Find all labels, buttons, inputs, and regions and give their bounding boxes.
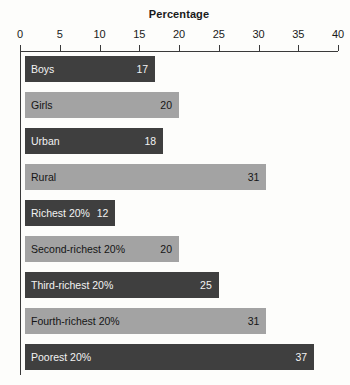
bar[interactable]: Urban18 bbox=[25, 128, 163, 154]
bar-row: Girls20 bbox=[0, 87, 350, 123]
x-axis-tick-label: 20 bbox=[173, 28, 185, 40]
x-axis-tick-label: 35 bbox=[292, 28, 304, 40]
bar-category-label: Urban bbox=[31, 136, 60, 147]
x-axis-tick-label: 30 bbox=[252, 28, 264, 40]
bar-value-label: 18 bbox=[144, 136, 156, 147]
bar-value-label: 20 bbox=[160, 100, 172, 111]
x-axis-tick-label: 15 bbox=[133, 28, 145, 40]
bar-category-label: Rural bbox=[31, 172, 56, 183]
bar-value-label: 12 bbox=[97, 208, 109, 219]
bar-value-label: 20 bbox=[160, 244, 172, 255]
bar[interactable]: Rural31 bbox=[25, 164, 266, 190]
bar[interactable]: Boys17 bbox=[25, 56, 155, 82]
bar-category-label: Third-richest 20% bbox=[31, 280, 113, 291]
x-axis-tick-label: 25 bbox=[213, 28, 225, 40]
bar-value-label: 17 bbox=[136, 64, 148, 75]
bar-category-label: Richest 20% bbox=[31, 208, 90, 219]
chart-title-text: Percentage bbox=[149, 8, 209, 20]
bar-category-label: Boys bbox=[31, 64, 54, 75]
bars-container: Boys17Girls20Urban18Rural31Richest 20%12… bbox=[0, 51, 350, 385]
bar-row: Rural31 bbox=[0, 159, 350, 195]
bar-category-label: Poorest 20% bbox=[31, 352, 91, 363]
bar-value-label: 31 bbox=[248, 316, 260, 327]
x-axis-tick-label: 5 bbox=[57, 28, 63, 40]
bar[interactable]: Second-richest 20%20 bbox=[25, 236, 179, 262]
bar-category-label: Second-richest 20% bbox=[31, 244, 125, 255]
x-axis-tick-label: 10 bbox=[93, 28, 105, 40]
bar-value-label: 37 bbox=[295, 352, 307, 363]
bar[interactable]: Girls20 bbox=[25, 92, 179, 118]
bar-row: Urban18 bbox=[0, 123, 350, 159]
bar-row: Poorest 20%37 bbox=[0, 339, 350, 375]
bar-row: Fourth-richest 20%31 bbox=[0, 303, 350, 339]
x-axis-tick-label: 40 bbox=[332, 28, 344, 40]
bar-row: Second-richest 20%20 bbox=[0, 231, 350, 267]
bar-row: Boys17 bbox=[0, 51, 350, 87]
bar-row: Third-richest 20%25 bbox=[0, 267, 350, 303]
bar[interactable]: Fourth-richest 20%31 bbox=[25, 308, 266, 334]
bar[interactable]: Richest 20%12 bbox=[25, 200, 115, 226]
bar[interactable]: Third-richest 20%25 bbox=[25, 272, 219, 298]
bar-chart: Percentage 0510152025303540 Boys17Girls2… bbox=[0, 0, 350, 385]
x-axis-tick-label: 0 bbox=[17, 28, 23, 40]
bar-value-label: 25 bbox=[200, 280, 212, 291]
chart-title: Percentage bbox=[0, 8, 350, 20]
bar-value-label: 31 bbox=[248, 172, 260, 183]
x-axis: 0510152025303540 bbox=[0, 28, 350, 52]
bar[interactable]: Poorest 20%37 bbox=[25, 344, 314, 370]
bar-category-label: Girls bbox=[31, 100, 53, 111]
bar-row: Richest 20%12 bbox=[0, 195, 350, 231]
bar-category-label: Fourth-richest 20% bbox=[31, 316, 120, 327]
